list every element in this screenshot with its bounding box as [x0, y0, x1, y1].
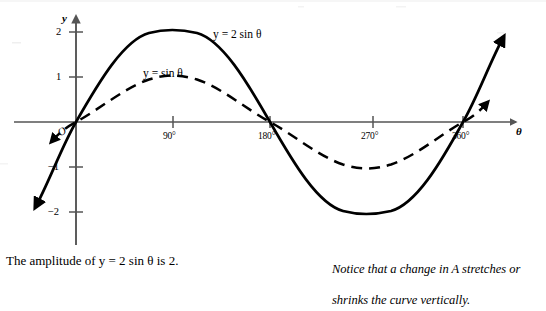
y-tick-label-2: 2	[56, 27, 61, 38]
y-axis-label: y	[62, 13, 67, 24]
y-tick-label-minus-1: −1	[48, 162, 59, 173]
caption-left: The amplitude of y = 2 sin θ is 2.	[6, 253, 178, 269]
x-axis-label: θ	[516, 126, 522, 137]
y-tick-label-1: 1	[56, 72, 61, 83]
y-tick-label-minus-2: −2	[48, 207, 59, 218]
caption-right-line-1: Notice that a change in A stretches or	[332, 262, 520, 277]
x-tick-label-180: 180°	[258, 132, 275, 142]
caption-right: Notice that a change in A stretches or s…	[332, 247, 520, 311]
x-tick-label-360: 360°	[452, 132, 469, 142]
x-tick-label-270: 270°	[361, 132, 378, 142]
x-tick-label-90: 90°	[163, 132, 176, 142]
curve-label-sin-theta: y = sin θ	[143, 68, 183, 80]
curve-label-2-sin-theta: y = 2 sin θ	[213, 29, 261, 41]
caption-right-line-2: shrinks the curve vertically.	[332, 293, 520, 308]
